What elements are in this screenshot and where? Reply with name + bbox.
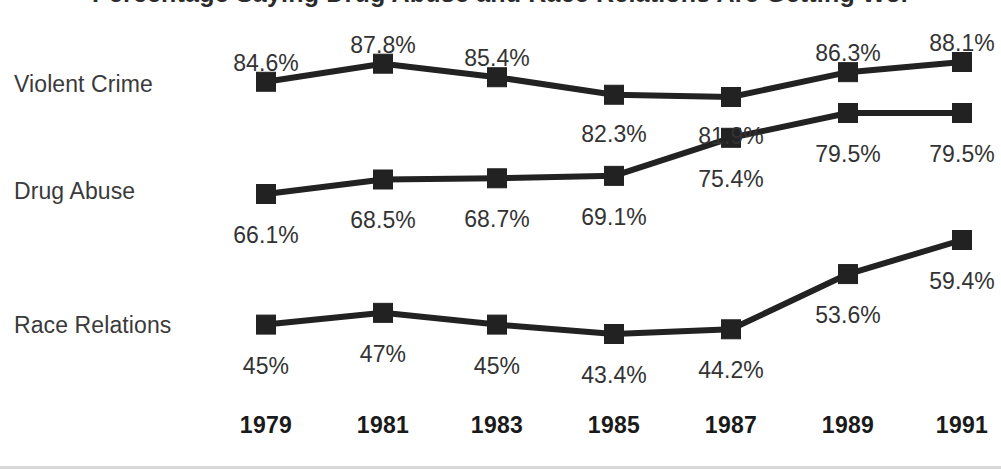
data-label: 43.4% [581,362,647,389]
x-axis-tick-label: 1983 [471,412,523,439]
data-label: 86.3% [815,40,881,67]
data-point-marker [488,169,507,188]
data-point-marker [374,170,393,189]
data-label: 53.6% [815,302,881,329]
data-point-marker [605,325,624,344]
data-label: 69.1% [581,204,647,231]
data-point-marker [722,88,741,107]
data-label: 85.4% [464,45,530,72]
data-label: 87.8% [350,32,416,59]
data-label: 82.3% [581,121,647,148]
data-point-marker [953,231,972,250]
data-point-marker [257,315,276,334]
x-axis-tick-label: 1989 [822,412,874,439]
data-point-marker [722,320,741,339]
data-label: 79.5% [815,141,881,168]
x-axis-tick-label: 1991 [936,412,988,439]
data-point-marker [605,166,624,185]
data-point-marker [605,85,624,104]
data-label: 68.7% [464,206,530,233]
data-point-marker [839,265,858,284]
data-label: 45% [474,353,520,380]
x-axis-tick-label: 1985 [588,412,640,439]
data-label: 84.6% [233,50,299,77]
x-axis-tick-label: 1979 [240,412,292,439]
data-point-marker [257,185,276,204]
data-point-marker [953,104,972,123]
data-label: 68.5% [350,207,416,234]
data-label: 88.1% [929,30,995,57]
chart-figure: Percentage Saying Drug Abuse and Race Re… [0,0,1001,469]
data-label: 81.9% [698,123,764,150]
data-point-marker [839,104,858,123]
x-axis-tick-label: 1987 [705,412,757,439]
data-label: 66.1% [233,222,299,249]
data-label: 59.4% [929,268,995,295]
data-label: 79.5% [929,141,995,168]
data-point-marker [488,315,507,334]
data-label: 45% [243,353,289,380]
data-label: 44.2% [698,357,764,384]
data-point-marker [374,303,393,322]
data-label: 47% [360,341,406,368]
x-axis-tick-label: 1981 [357,412,409,439]
data-label: 75.4% [698,166,764,193]
